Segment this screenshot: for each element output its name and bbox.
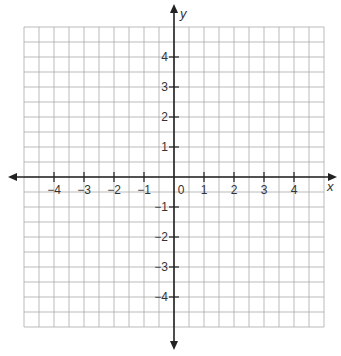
x-tick-label: 0 — [178, 183, 185, 197]
y-axis-down-arrow-icon — [170, 341, 178, 350]
y-axis-up-arrow-icon — [170, 4, 178, 13]
x-tick-label: −3 — [77, 183, 91, 197]
x-tick-label: −1 — [137, 183, 151, 197]
x-axis-label: x — [326, 179, 334, 194]
coordinate-plane: xy−4−3−2−1012344321−1−2−3−4 — [0, 0, 341, 356]
y-tick-label: 3 — [161, 80, 168, 94]
y-tick-label: 1 — [161, 140, 168, 154]
y-tick-label: 4 — [161, 50, 168, 64]
x-tick-label: 2 — [231, 183, 238, 197]
x-axis-left-arrow-icon — [8, 173, 17, 181]
y-tick-label: −2 — [154, 230, 168, 244]
x-tick-label: 4 — [291, 183, 298, 197]
x-tick-label: −4 — [47, 183, 61, 197]
y-tick-label: 2 — [161, 110, 168, 124]
y-axis-label: y — [179, 6, 188, 21]
y-tick-label: −1 — [154, 200, 168, 214]
x-tick-label: −2 — [107, 183, 121, 197]
y-tick-label: −4 — [154, 290, 168, 304]
x-tick-label: 1 — [201, 183, 208, 197]
y-tick-label: −3 — [154, 260, 168, 274]
x-tick-label: 3 — [261, 183, 268, 197]
